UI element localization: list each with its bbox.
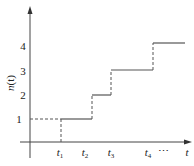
axes	[20, 12, 186, 158]
x-tick-ellipsis: ⋯	[158, 145, 169, 157]
step-series	[61, 43, 185, 119]
x-axis-arrow-icon	[184, 140, 192, 145]
y-axis-arrow-icon	[28, 6, 33, 14]
y-axis-label: n(t)	[4, 75, 17, 91]
dashed-guides	[30, 43, 153, 142]
y-tick-3: 3	[20, 65, 26, 77]
x-tick-t3: t3	[108, 146, 115, 160]
x-tick-t2: t2	[82, 146, 89, 160]
y-tick-labels: 1 2 3 4	[16, 40, 26, 125]
x-tick-t4: t4	[145, 146, 152, 160]
x-tick-labels: t1 t2 t3 t4 ⋯ t	[57, 145, 190, 160]
y-tick-1: 1	[16, 113, 22, 125]
step-chart: 1 2 3 4 n(t) t1 t2 t3 t4 ⋯ t	[0, 0, 194, 166]
y-tick-2: 2	[20, 89, 26, 101]
x-axis-label: t	[185, 146, 189, 158]
x-tick-t1: t1	[57, 146, 64, 160]
y-tick-4: 4	[20, 40, 26, 52]
